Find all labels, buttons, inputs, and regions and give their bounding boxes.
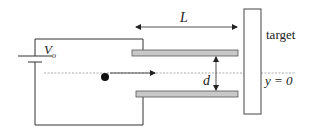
particle-dot [101,73,109,81]
top-plate [132,50,238,56]
diagram-canvas [0,0,312,132]
length-label: L [180,11,188,25]
separation-label: d [203,74,210,88]
target-label: target [266,28,295,41]
voltage-label: Vo [44,43,56,60]
bottom-plate [136,91,238,97]
axis-label: y = 0 [265,74,293,87]
target-screen [244,9,261,114]
